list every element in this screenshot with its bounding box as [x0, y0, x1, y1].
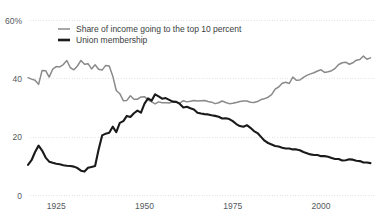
gridlines-group	[30, 21, 374, 196]
legend-label-2: Union membership	[76, 35, 148, 45]
y-axis-tick-label: 0	[17, 191, 22, 201]
y-axis-labels-group: 60%40200	[5, 16, 22, 201]
series-line-1	[28, 56, 370, 104]
x-axis-tick-label: 1925	[47, 201, 66, 211]
chart-container: 60%40200 1925195019752000 Share of incom…	[0, 0, 382, 224]
legend-group: Share of income going to the top 10 perc…	[58, 24, 242, 45]
series-line-2	[28, 94, 370, 171]
series-group	[28, 56, 370, 172]
line-chart: 60%40200 1925195019752000 Share of incom…	[0, 0, 382, 224]
y-axis-tick-label: 40	[13, 74, 23, 84]
x-axis-tick-label: 2000	[312, 201, 331, 211]
x-axis-tick-label: 1950	[135, 201, 154, 211]
x-axis-tick-label: 1975	[223, 201, 242, 211]
y-axis-tick-label: 60%	[5, 16, 22, 26]
x-axis-labels-group: 1925195019752000	[47, 201, 331, 211]
y-axis-tick-label: 20	[13, 132, 23, 142]
legend-label-1: Share of income going to the top 10 perc…	[76, 24, 242, 34]
